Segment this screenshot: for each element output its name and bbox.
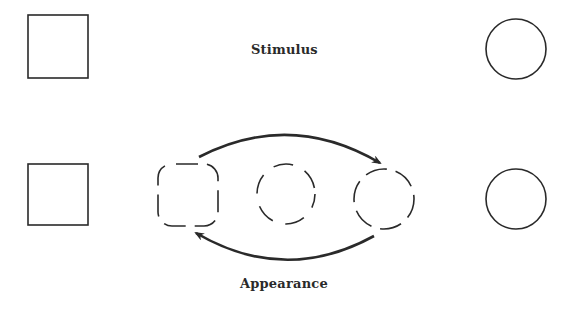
stimulus-label: Stimulus bbox=[251, 42, 318, 57]
stimulus-square bbox=[28, 15, 88, 78]
appearance-square bbox=[28, 164, 88, 225]
dashed-rounded-square bbox=[158, 164, 218, 226]
stimulus-circle bbox=[486, 19, 546, 79]
dashed-squircle bbox=[257, 164, 315, 224]
appearance-label: Appearance bbox=[240, 276, 328, 291]
appearance-circle bbox=[486, 169, 546, 229]
forward-arrow bbox=[199, 135, 380, 163]
backward-arrow bbox=[196, 233, 374, 260]
dashed-circle bbox=[354, 169, 414, 229]
